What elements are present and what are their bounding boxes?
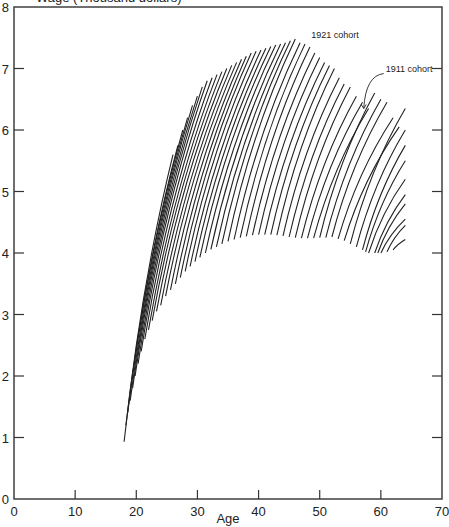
y-tick-label: 4	[2, 246, 9, 261]
x-tick-label: 20	[129, 504, 143, 519]
x-tick-label: 40	[251, 504, 265, 519]
y-tick-label: 8	[2, 0, 9, 15]
cohort-line	[393, 240, 405, 250]
cohort-annotation: 1921 cohort	[311, 30, 359, 40]
x-tick-label: 70	[435, 504, 449, 519]
y-tick-label: 6	[2, 123, 9, 138]
cohort-wage-chart: Wage (Thousand dollars) 010203040506070 …	[0, 0, 449, 527]
y-tick-label: 1	[2, 431, 9, 446]
x-tick-label: 10	[68, 504, 82, 519]
cohort-curves	[124, 39, 405, 442]
x-tick-label: 60	[374, 504, 388, 519]
cohort-line	[277, 69, 335, 236]
y-tick-label: 5	[2, 185, 9, 200]
cohort-line	[314, 109, 369, 239]
x-tick-label: 50	[312, 504, 326, 519]
cohort-line	[338, 118, 393, 239]
y-tick-label: 2	[2, 369, 9, 384]
y-tick-label: 0	[2, 492, 9, 507]
cohort-line	[363, 145, 406, 250]
y-tick-label: 7	[2, 62, 9, 77]
x-tick-label: 0	[10, 504, 17, 519]
annotation-arrow	[364, 74, 384, 109]
cohort-annotation: 1911 cohort	[386, 64, 433, 74]
cohort-line	[378, 204, 406, 253]
cohort-line	[350, 109, 405, 244]
cohort-line	[366, 161, 406, 252]
x-axis-title: Age	[216, 511, 239, 526]
y-tick-label: 3	[2, 308, 9, 323]
y-axis-title: Wage (Thousand dollars)	[36, 0, 181, 5]
x-tick-label: 30	[190, 504, 204, 519]
